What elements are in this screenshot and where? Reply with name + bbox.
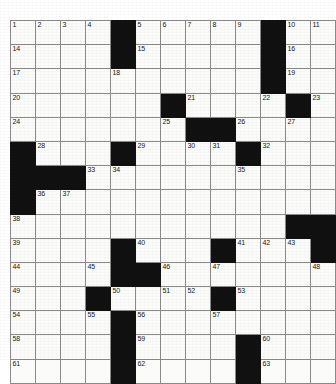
crossword-cell[interactable] [236,262,261,286]
crossword-cell[interactable]: 31 [211,141,236,165]
crossword-cell[interactable] [236,190,261,214]
crossword-cell[interactable]: 56 [136,311,161,335]
crossword-cell[interactable] [161,190,186,214]
crossword-cell[interactable]: 6 [161,21,186,45]
crossword-cell[interactable]: 11 [311,21,336,45]
crossword-cell[interactable]: 2 [36,21,61,45]
crossword-cell[interactable] [86,190,111,214]
crossword-cell[interactable] [186,335,211,359]
crossword-cell[interactable] [161,359,186,383]
crossword-cell[interactable]: 30 [186,141,211,165]
crossword-cell[interactable] [86,117,111,141]
crossword-cell[interactable]: 48 [311,262,336,286]
crossword-cell[interactable] [86,93,111,117]
crossword-cell[interactable]: 18 [111,69,136,93]
crossword-cell[interactable] [111,190,136,214]
crossword-cell[interactable] [136,190,161,214]
crossword-cell[interactable]: 61 [11,359,36,383]
crossword-cell[interactable] [86,214,111,238]
crossword-cell[interactable]: 17 [11,69,36,93]
crossword-cell[interactable]: 57 [211,311,236,335]
crossword-cell[interactable] [311,141,336,165]
crossword-cell[interactable]: 23 [311,93,336,117]
crossword-cell[interactable] [86,45,111,69]
crossword-cell[interactable]: 41 [236,238,261,262]
crossword-cell[interactable] [61,141,86,165]
crossword-cell[interactable] [311,190,336,214]
crossword-cell[interactable] [186,45,211,69]
crossword-cell[interactable]: 14 [11,45,36,69]
crossword-cell[interactable]: 32 [261,141,286,165]
crossword-cell[interactable] [311,287,336,311]
crossword-cell[interactable] [36,311,61,335]
crossword-cell[interactable] [186,214,211,238]
crossword-cell[interactable]: 9 [236,21,261,45]
crossword-cell[interactable] [186,262,211,286]
crossword-grid[interactable]: 1234567891011141516171819202122232425262… [10,20,336,384]
crossword-cell[interactable] [36,335,61,359]
crossword-cell[interactable] [261,190,286,214]
crossword-cell[interactable] [286,335,311,359]
crossword-cell[interactable]: 4 [86,21,111,45]
crossword-cell[interactable]: 63 [261,359,286,383]
crossword-cell[interactable] [136,69,161,93]
crossword-cell[interactable]: 35 [236,166,261,190]
crossword-cell[interactable]: 38 [11,214,36,238]
crossword-cell[interactable] [36,45,61,69]
crossword-cell[interactable]: 39 [11,238,36,262]
crossword-cell[interactable]: 62 [136,359,161,383]
crossword-cell[interactable] [111,117,136,141]
crossword-cell[interactable] [86,141,111,165]
crossword-cell[interactable] [311,117,336,141]
crossword-cell[interactable] [36,359,61,383]
crossword-cell[interactable]: 52 [186,287,211,311]
crossword-cell[interactable]: 10 [286,21,311,45]
crossword-cell[interactable] [211,359,236,383]
crossword-cell[interactable]: 37 [61,190,86,214]
crossword-cell[interactable] [136,117,161,141]
crossword-cell[interactable] [136,93,161,117]
crossword-cell[interactable]: 40 [136,238,161,262]
crossword-cell[interactable]: 16 [286,45,311,69]
crossword-cell[interactable] [211,214,236,238]
crossword-cell[interactable] [236,93,261,117]
crossword-cell[interactable] [286,287,311,311]
crossword-cell[interactable] [61,335,86,359]
crossword-cell[interactable]: 22 [261,93,286,117]
crossword-cell[interactable] [236,311,261,335]
crossword-cell[interactable] [61,45,86,69]
crossword-cell[interactable]: 8 [211,21,236,45]
crossword-cell[interactable] [211,45,236,69]
crossword-cell[interactable]: 21 [186,93,211,117]
crossword-cell[interactable] [61,262,86,286]
crossword-cell[interactable] [261,166,286,190]
crossword-cell[interactable]: 34 [111,166,136,190]
crossword-cell[interactable] [61,69,86,93]
crossword-cell[interactable] [61,214,86,238]
crossword-cell[interactable] [61,93,86,117]
crossword-cell[interactable] [36,262,61,286]
crossword-cell[interactable] [311,69,336,93]
crossword-cell[interactable] [211,166,236,190]
crossword-cell[interactable]: 58 [11,335,36,359]
crossword-cell[interactable] [186,69,211,93]
crossword-cell[interactable]: 3 [61,21,86,45]
crossword-cell[interactable]: 53 [236,287,261,311]
crossword-cell[interactable] [311,166,336,190]
crossword-cell[interactable]: 49 [11,287,36,311]
crossword-cell[interactable] [86,359,111,383]
crossword-cell[interactable] [161,141,186,165]
crossword-cell[interactable]: 28 [36,141,61,165]
crossword-cell[interactable] [286,190,311,214]
crossword-cell[interactable] [286,262,311,286]
crossword-cell[interactable] [261,262,286,286]
crossword-cell[interactable] [61,287,86,311]
crossword-cell[interactable] [211,335,236,359]
crossword-cell[interactable]: 47 [211,262,236,286]
crossword-cell[interactable]: 26 [236,117,261,141]
crossword-cell[interactable]: 42 [261,238,286,262]
crossword-cell[interactable] [211,190,236,214]
crossword-cell[interactable]: 24 [11,117,36,141]
crossword-cell[interactable] [36,214,61,238]
crossword-cell[interactable] [161,335,186,359]
